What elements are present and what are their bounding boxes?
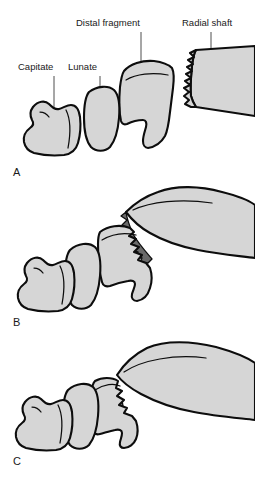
bone-radial-shaft-b [126,187,255,258]
panel-letter-b: B [13,316,20,328]
panel-b: B [13,187,255,328]
panel-c: C [13,342,255,467]
illustration-canvas: Capitate Lunate Distal fragment Radial s… [0,0,255,481]
bone-radial-shaft-a [191,46,255,116]
label-capitate: Capitate [18,61,53,72]
bone-capitate-b [18,258,75,312]
bone-radial-shaft-c [117,342,255,420]
label-distal-fragment: Distal fragment [76,17,140,28]
panel-letter-c: C [13,455,21,467]
medical-illustration-figure: Capitate Lunate Distal fragment Radial s… [0,0,255,481]
label-lunate: Lunate [68,61,97,72]
panel-letter-a: A [13,166,21,178]
bone-capitate-a [24,102,81,156]
bone-lunate-a [84,87,119,151]
label-radial-shaft: Radial shaft [182,17,233,28]
bone-capitate-c [16,397,73,451]
